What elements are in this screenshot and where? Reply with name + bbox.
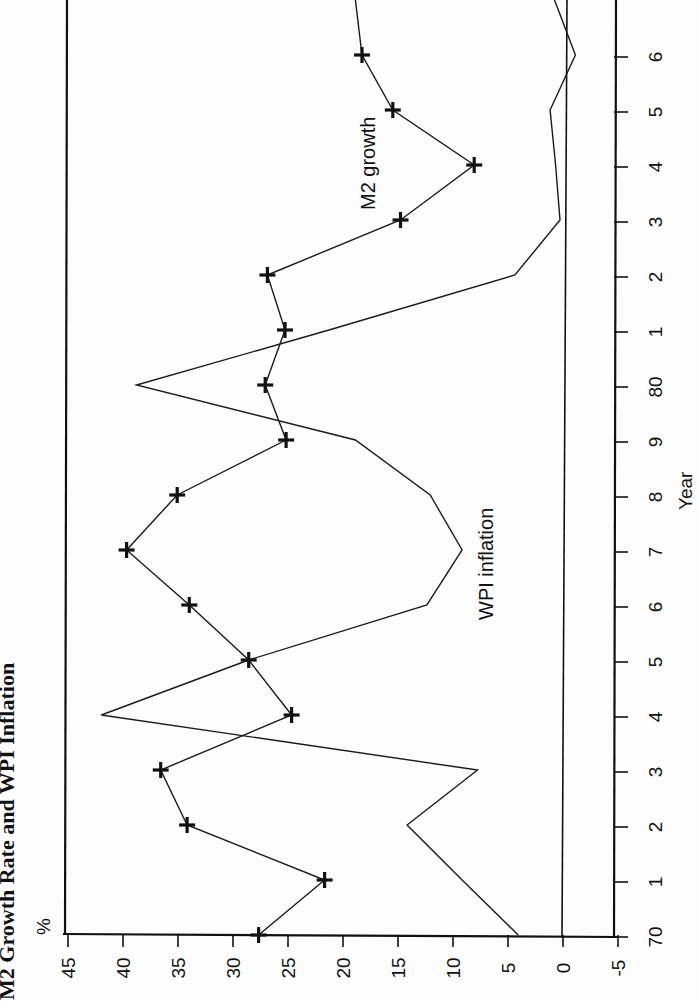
axes — [63, 0, 618, 937]
plus-marker-icon — [466, 157, 482, 173]
year-tick-label: 3 — [645, 767, 666, 778]
value-tick-label: 40 — [113, 957, 134, 978]
year-tick-label: 80 — [645, 376, 666, 397]
plus-marker-icon — [317, 872, 333, 888]
value-tick-label: 15 — [388, 957, 409, 978]
chart-title: M2 Growth Rate and WPI Inflation — [0, 663, 19, 1000]
plus-marker-icon — [354, 47, 370, 63]
value-axis-left-boundary — [65, 0, 67, 935]
series-m2-growth — [119, 0, 483, 943]
plus-marker-icon — [257, 377, 273, 393]
value-tick-label: 5 — [498, 963, 519, 974]
year-tick-label: 1 — [645, 327, 666, 338]
plus-marker-icon — [284, 707, 300, 723]
year-tick-label: 2 — [645, 822, 666, 833]
plus-marker-icon — [278, 432, 294, 448]
value-tick-label: 25 — [278, 957, 299, 978]
value-tick-label: 10 — [443, 957, 464, 978]
value-tick-label: 45 — [58, 957, 79, 978]
m2-growth-label: M2 growth — [357, 117, 379, 210]
value-tick-label: 20 — [333, 957, 354, 978]
value-tick-label: 0 — [553, 963, 574, 974]
chart-canvas: M2 Growth Rate and WPI Inflation 4540353… — [0, 0, 699, 1001]
value-axis-ticks: 454035302520151050-5 — [58, 935, 629, 979]
plus-marker-icon — [251, 927, 267, 943]
series-line — [127, 0, 475, 935]
year-tick-label: 4 — [645, 161, 666, 172]
year-tick-label: 6 — [645, 602, 666, 613]
zero-line — [562, 0, 567, 937]
value-tick-label: 30 — [223, 957, 244, 978]
value-axis — [63, 934, 618, 937]
year-tick-label: 70 — [645, 926, 666, 947]
plus-marker-icon — [153, 762, 169, 778]
plus-marker-icon — [277, 322, 293, 338]
value-tick-label: -5 — [608, 960, 629, 977]
year-axis-ticks: 7012345678980123456 — [614, 52, 666, 948]
year-tick-label: 8 — [645, 492, 666, 503]
chart-title-group: M2 Growth Rate and WPI Inflation — [0, 663, 19, 1000]
wpi-inflation-label: WPI inflation — [475, 508, 497, 620]
year-tick-label: 1 — [645, 877, 666, 888]
year-tick-label: 5 — [645, 107, 666, 118]
year-tick-label: 3 — [645, 217, 666, 228]
value-tick-label: 35 — [168, 957, 189, 978]
year-axis — [614, 0, 616, 937]
year-tick-label: 2 — [645, 272, 666, 283]
year-tick-label: 7 — [645, 547, 666, 558]
plus-marker-icon — [259, 267, 275, 283]
year-tick-label: 4 — [645, 711, 666, 722]
x-axis-title: Year — [675, 471, 696, 510]
year-tick-label: 5 — [645, 657, 666, 668]
plus-marker-icon — [385, 102, 401, 118]
plus-marker-icon — [393, 212, 409, 228]
year-tick-label: 9 — [645, 437, 666, 448]
plus-marker-icon — [179, 817, 195, 833]
y-unit-label: % — [33, 918, 54, 935]
year-tick-label: 6 — [645, 52, 666, 63]
